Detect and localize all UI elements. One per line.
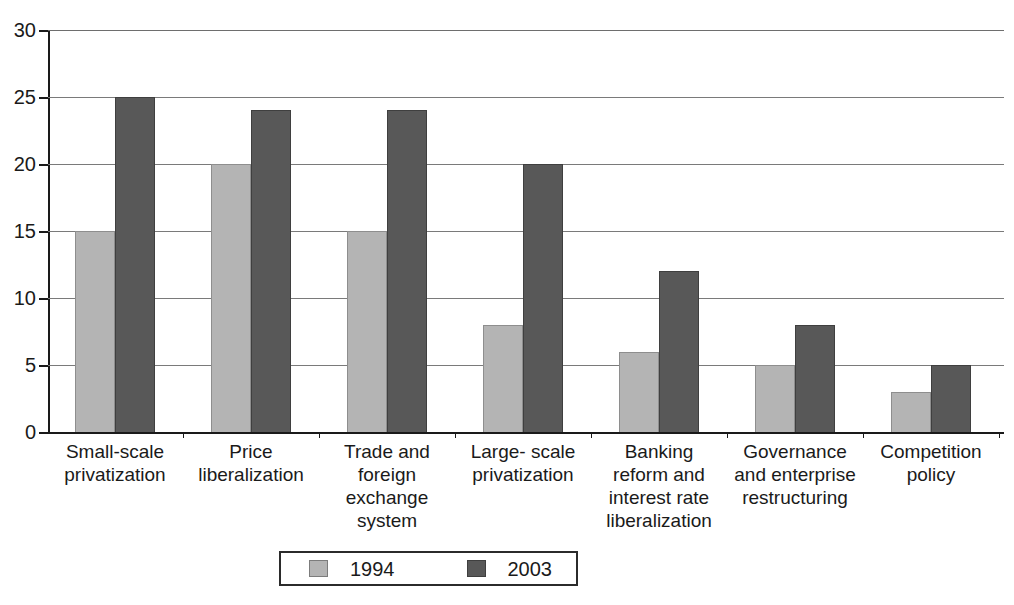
x-axis-tick [727, 432, 728, 438]
bar-2003-1 [251, 110, 291, 432]
x-axis-tick [455, 432, 456, 438]
bar-2003-0 [115, 97, 155, 432]
bar-1994-6 [891, 392, 931, 432]
y-axis-tick [39, 97, 48, 99]
legend-swatch-icon-2003 [467, 560, 486, 577]
legend-label-1994: 1994 [350, 559, 395, 579]
x-axis-tick [319, 432, 320, 438]
gridline [48, 432, 1004, 434]
x-axis-category-line: policy [851, 463, 1011, 486]
y-axis-label: 25 [0, 87, 36, 107]
bar-2003-5 [795, 325, 835, 432]
gridline [48, 30, 1004, 31]
y-axis-tick [39, 30, 48, 32]
y-axis-label: 15 [0, 221, 36, 241]
x-axis-category-line: exchange [307, 486, 467, 509]
x-axis-category-line: Competition [851, 440, 1011, 463]
x-axis-tick [999, 432, 1000, 438]
x-axis-tick [863, 432, 864, 438]
x-axis-category-line: liberalization [579, 509, 739, 532]
bar-1994-4 [619, 352, 659, 432]
bar-1994-3 [483, 325, 523, 432]
bar-2003-4 [659, 271, 699, 432]
bar-1994-1 [211, 164, 251, 432]
y-axis-tick [39, 164, 48, 166]
bar-2003-6 [931, 365, 971, 432]
bar-2003-2 [387, 110, 427, 432]
y-axis-label: 20 [0, 154, 36, 174]
x-axis-tick [591, 432, 592, 438]
legend-label-2003: 2003 [508, 559, 553, 579]
x-axis-category-label: Competitionpolicy [851, 440, 1011, 486]
legend-swatch-icon-1994 [309, 560, 328, 577]
y-axis-tick [39, 298, 48, 300]
x-axis-category-line: restructuring [715, 486, 875, 509]
x-axis-tick [183, 432, 184, 438]
bar-2003-3 [523, 164, 563, 432]
y-axis-tick [39, 365, 48, 367]
y-axis-label: 30 [0, 20, 36, 40]
legend-item-1994: 1994 [309, 559, 395, 579]
bar-1994-5 [755, 365, 795, 432]
y-axis-tick [39, 231, 48, 233]
bar-chart: 051015202530 Small-scaleprivatizationPri… [0, 0, 1014, 605]
y-axis-label: 5 [0, 355, 36, 375]
chart-legend: 1994 2003 [279, 551, 578, 586]
bar-1994-0 [75, 231, 115, 432]
y-axis-label: 0 [0, 422, 36, 442]
x-axis-category-line: system [307, 509, 467, 532]
y-axis-tick [39, 432, 48, 434]
gridline [48, 97, 1004, 98]
plot-area [48, 30, 1004, 432]
y-axis-label: 10 [0, 288, 36, 308]
legend-item-2003: 2003 [467, 559, 553, 579]
bar-1994-2 [347, 231, 387, 432]
